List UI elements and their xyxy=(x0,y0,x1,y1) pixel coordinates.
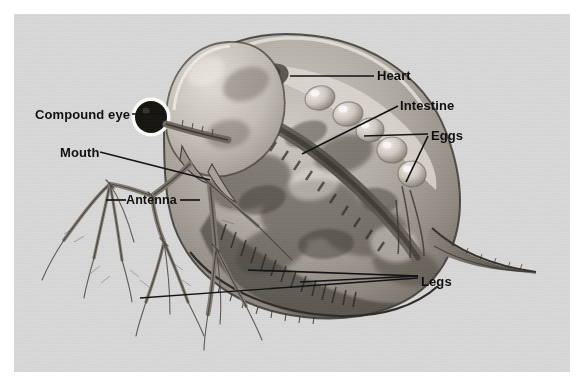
label-intestine: Intestine xyxy=(400,99,454,113)
label-heart: Heart xyxy=(377,69,411,83)
label-antenna: Antenna xyxy=(126,193,177,207)
figure-plate: Compound eye Mouth Antenna Heart Intesti… xyxy=(0,0,585,387)
label-legs: Legs xyxy=(421,275,452,289)
label-eggs: Eggs xyxy=(431,129,463,143)
photograph-area: Compound eye Mouth Antenna Heart Intesti… xyxy=(14,14,570,372)
daphnia-illustration xyxy=(14,14,570,372)
label-compound-eye: Compound eye xyxy=(35,108,130,122)
label-mouth: Mouth xyxy=(60,146,99,160)
